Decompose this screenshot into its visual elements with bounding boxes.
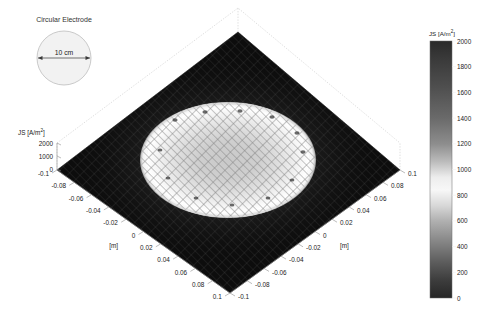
x-tick-10: 0.1 (213, 293, 222, 300)
y-tick-7: -0.04 (289, 256, 304, 263)
z-axis-label: JS [A/m2] (18, 128, 45, 137)
colorbar-tick-400: 400 (457, 243, 468, 250)
inset-title: Circular Electrode (36, 16, 92, 23)
y-tick-0: 0.1 (408, 170, 417, 177)
colorbar: 2000 1800 1600 1400 1200 1000 800 600 40… (429, 29, 472, 301)
x-tick-5: 0 (132, 232, 136, 239)
x-tick-9: 0.08 (192, 281, 205, 288)
x-tick-1: -0.08 (51, 182, 66, 189)
colorbar-tick-1800: 1800 (457, 63, 472, 70)
colorbar-tick-1200: 1200 (457, 140, 472, 147)
x-tick-6: 0.02 (140, 244, 153, 251)
colorbar-tick-200: 200 (457, 269, 468, 276)
y-tick-9: -0.08 (255, 281, 270, 288)
y-tick-6: -0.02 (306, 244, 321, 251)
colorbar-tick-800: 800 (457, 192, 468, 199)
surface-plot (50, 20, 410, 310)
colorbar-tick-2000: 2000 (457, 38, 472, 45)
z-tick-0: 0 (49, 166, 53, 173)
y-tick-4: 0.02 (340, 219, 353, 226)
x-tick-0: -0.1 (38, 170, 49, 177)
colorbar-tick-600: 600 (457, 217, 468, 224)
x-tick-7: 0.04 (157, 256, 170, 263)
inset-dimension-label: 10 cm (55, 49, 74, 56)
colorbar-title: JS [A/m2] (429, 29, 455, 37)
plot-canvas: 2000 1000 0 JS [A/m2] -0.1 -0.08 -0.06 (0, 0, 484, 320)
z-axis: 2000 1000 0 JS [A/m2] (18, 128, 61, 172)
x-tick-8: 0.06 (175, 269, 188, 276)
colorbar-tick-1000: 1000 (457, 166, 472, 173)
x-tick-4: -0.02 (103, 219, 118, 226)
y-tick-5: 0 (323, 232, 327, 239)
figure-root: 2000 1000 0 JS [A/m2] -0.1 -0.08 -0.06 (0, 0, 484, 320)
colorbar-tick-1600: 1600 (457, 89, 472, 96)
y-tick-1: 0.08 (391, 182, 404, 189)
colorbar-tick-1400: 1400 (457, 115, 472, 122)
y-tick-2: 0.06 (374, 195, 387, 202)
colorbar-tick-0: 0 (457, 295, 461, 302)
y-tick-8: -0.06 (272, 269, 287, 276)
circular-electrode-inset: Circular Electrode 10 cm (36, 16, 92, 85)
y-tick-10: -0.1 (238, 293, 249, 300)
x-tick-3: -0.04 (86, 207, 101, 214)
z-tick-1000: 1000 (39, 153, 54, 160)
x-axis-unit-label: [m] (109, 242, 118, 250)
x-tick-2: -0.06 (69, 195, 84, 202)
y-tick-3: 0.04 (357, 207, 370, 214)
z-tick-2000: 2000 (39, 140, 54, 147)
y-axis-unit-label: [m] (340, 242, 349, 250)
